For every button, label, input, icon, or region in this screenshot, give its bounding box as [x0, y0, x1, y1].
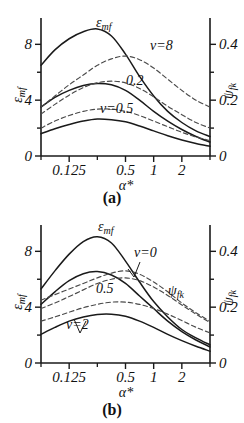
x-tick-label: 2: [178, 369, 186, 385]
right-axis-title: ψfk: [221, 82, 238, 98]
x-tick-label: 2: [178, 162, 186, 178]
epsilon-mf-label: εmf: [98, 219, 115, 236]
x-tick-label: 1: [150, 162, 158, 178]
chart-panel-b: 04800.20.40.1250.512εmfψfkα*εmfν=00.5ν=2…: [0, 207, 244, 423]
right-tick-label: 0: [219, 355, 227, 371]
psi-fk-label: ψfk: [168, 283, 184, 300]
left-tick-label: 8: [25, 243, 33, 259]
x-tick-label: 1: [150, 369, 158, 385]
panel-b-plot-group: 04800.20.40.1250.512εmfψfkα*εmfν=00.5ν=2…: [10, 219, 238, 419]
left-axis-title: εmf: [10, 86, 27, 103]
solid-curve: [41, 119, 210, 146]
nu-0p5-label: ν=0.5: [100, 101, 133, 116]
panel-a-svg: 04800.20.40.1250.512εmfψfkα*εmfν=80.2ν=0…: [0, 0, 244, 211]
chart-panel-a: 04800.20.40.1250.512εmfψfkα*εmfν=80.2ν=0…: [0, 0, 244, 211]
epsilon-mf-label: εmf: [96, 15, 113, 32]
nu-0p2-label: 0.2: [126, 73, 144, 88]
panel-a-plot-group: 04800.20.40.1250.512εmfψfkα*εmfν=80.2ν=0…: [10, 15, 238, 207]
panel-caption: (a): [103, 189, 122, 207]
right-axis-title: ψfk: [221, 289, 238, 305]
nu-0-label: ν=0: [134, 245, 157, 260]
right-tick-label: 0.4: [219, 243, 238, 259]
right-tick-label: 0.4: [219, 36, 238, 52]
x-tick-label: 0.125: [52, 369, 86, 385]
left-tick-label: 0: [25, 148, 33, 164]
x-tick-label: 0.125: [52, 162, 86, 178]
x-axis-title: α*: [119, 385, 133, 400]
left-tick-label: 8: [25, 36, 33, 52]
panel-b-svg: 04800.20.40.1250.512εmfψfkα*εmfν=00.5ν=2…: [0, 207, 244, 423]
x-tick-label: 0.5: [116, 162, 135, 178]
nu-8-label: ν=8: [150, 38, 173, 53]
panel-caption: (b): [102, 401, 122, 419]
solid-curve: [41, 272, 210, 347]
figure-container: 04800.20.40.1250.512εmfψfkα*εmfν=80.2ν=0…: [0, 0, 244, 423]
nu-2-label: ν=2: [66, 317, 89, 332]
right-tick-label: 0: [219, 148, 227, 164]
left-axis-title: εmf: [10, 293, 27, 310]
left-tick-label: 0: [25, 355, 33, 371]
x-tick-label: 0.5: [116, 369, 135, 385]
nu-0p5-label: 0.5: [96, 281, 114, 296]
